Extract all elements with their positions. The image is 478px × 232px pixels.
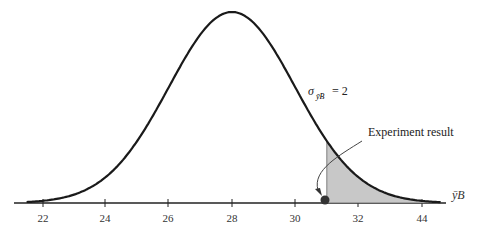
shaded-tail-region [327,141,441,203]
sigma-value: = 2 [332,84,348,98]
normal-distribution-chart: 22242628303244 Experiment result σ ȳB = … [0,0,478,232]
sigma-label: σ [308,84,315,98]
x-tick-label: 28 [227,212,239,224]
x-axis-label: ȳB [451,188,465,202]
x-tick-label: 30 [290,212,302,224]
x-tick-label: 22 [38,212,49,224]
arrow-head-icon [315,188,322,196]
x-tick-label: 24 [100,212,112,224]
x-tick-label: 44 [417,212,429,224]
experiment-result-dot [321,196,330,205]
x-tick-label: 26 [163,212,175,224]
experiment-result-label: Experiment result [368,125,454,139]
normal-curve [27,12,441,202]
x-tick-label: 32 [353,212,364,224]
sigma-subscript: ȳB [315,92,325,101]
